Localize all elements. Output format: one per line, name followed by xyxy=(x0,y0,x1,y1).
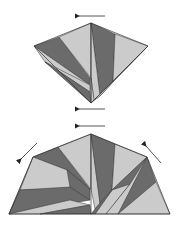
step-1-kite xyxy=(34,16,148,109)
step-2-fan xyxy=(9,126,170,214)
kite-right-light-panel xyxy=(113,34,148,82)
origami-diagram xyxy=(0,0,179,229)
